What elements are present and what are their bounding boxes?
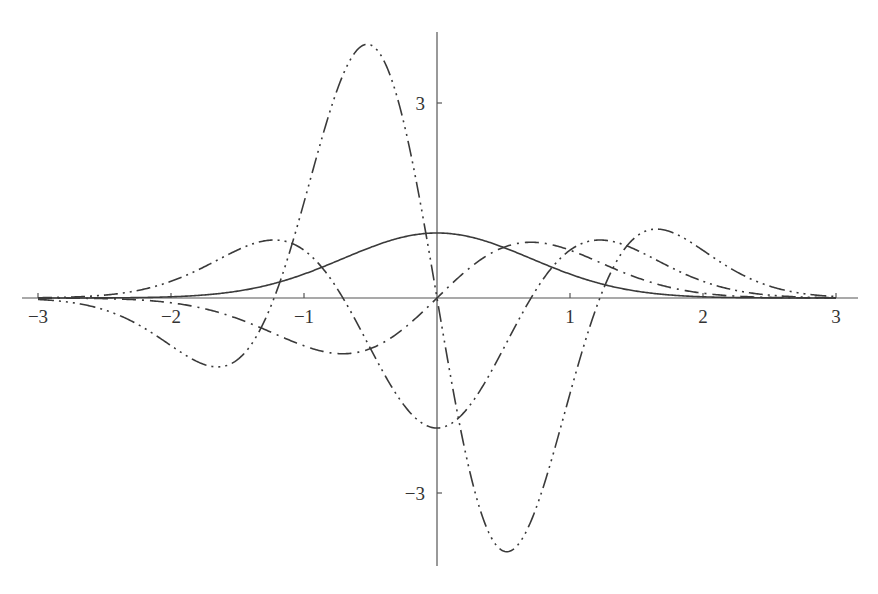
x-tick-label: −3 bbox=[28, 306, 48, 327]
x-tick-label: 2 bbox=[698, 306, 708, 327]
axes: −3−2−1123 3−3 bbox=[22, 32, 858, 566]
y-tick-label: 3 bbox=[416, 93, 426, 114]
x-tick-label: 1 bbox=[565, 306, 575, 327]
x-tick-label: −1 bbox=[294, 306, 314, 327]
x-tick-label: 3 bbox=[831, 306, 841, 327]
x-tick-label: −2 bbox=[161, 306, 181, 327]
y-tick-label: −3 bbox=[405, 483, 425, 504]
hermite-functions-plot: −3−2−1123 3−3 bbox=[0, 0, 878, 594]
